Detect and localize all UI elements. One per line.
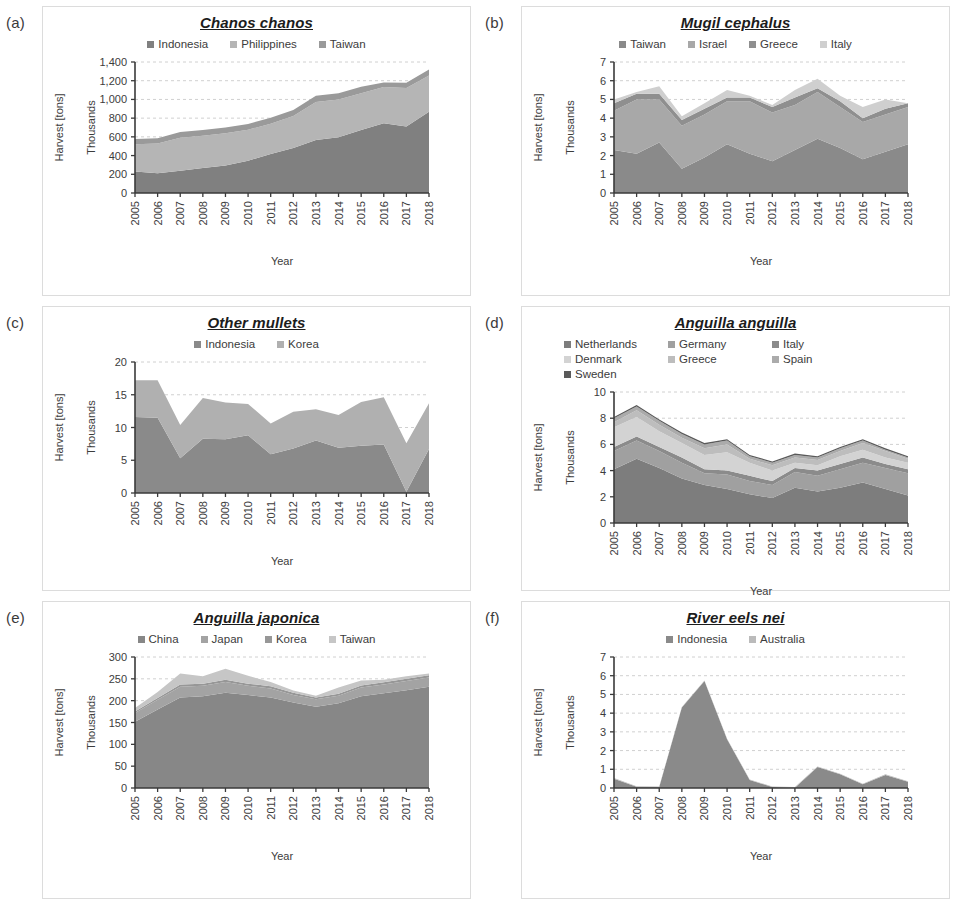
y-tick-label: 10 <box>115 422 127 434</box>
legend-swatch-icon <box>138 636 145 643</box>
y-tick-label: 400 <box>109 150 127 162</box>
x-tick-label: 2011 <box>744 201 756 225</box>
legend-item[interactable]: Denmark <box>564 353 668 365</box>
chart-plot-(e): 0501001502002503002005200620072008200920… <box>43 649 443 864</box>
figure-grid: (a) Chanos chanos IndonesiaPhilippinesTa… <box>0 0 958 903</box>
x-tick-label: 2013 <box>789 531 801 555</box>
unit-label: Thousands <box>85 400 97 455</box>
legend-item[interactable]: Netherlands <box>564 338 668 350</box>
y-tick-label: 600 <box>109 131 127 143</box>
y-axis-label: Harvest [tons] <box>532 689 544 757</box>
legend-item-label: Netherlands <box>575 338 637 350</box>
legend-item[interactable]: Indonesia <box>147 38 208 50</box>
legend-item-label: Taiwan <box>330 38 366 50</box>
chart-title-e: Anguilla japonica <box>43 609 470 626</box>
legend-item[interactable]: Indonesia <box>666 633 727 645</box>
legend-swatch-icon <box>230 41 237 48</box>
legend-item[interactable]: Sweden <box>564 368 668 380</box>
x-tick-label: 2013 <box>789 201 801 225</box>
legend-swatch-icon <box>564 371 571 378</box>
legend-item[interactable]: China <box>138 633 179 645</box>
chart-plot-(d): 0246810200520062007200820092010201120122… <box>522 384 922 599</box>
unit-label: Thousands <box>85 695 97 750</box>
y-tick-label: 2 <box>600 745 606 757</box>
legend-swatch-icon <box>668 356 675 363</box>
plot-c: 0510152020052006200720082009201020112012… <box>43 354 470 569</box>
legend-item[interactable]: Spain <box>772 353 876 365</box>
legend-item[interactable]: Philippines <box>230 38 297 50</box>
panel-f: (f) River eels nei IndonesiaAustralia 01… <box>479 595 958 903</box>
x-tick-label: 2007 <box>174 201 186 225</box>
y-tick-label: 3 <box>600 131 606 143</box>
legend-item[interactable]: Germany <box>668 338 772 350</box>
x-tick-label: 2011 <box>744 531 756 555</box>
x-tick-label: 2014 <box>812 796 824 820</box>
y-tick-label: 5 <box>600 688 606 700</box>
x-tick-label: 2016 <box>378 201 390 225</box>
y-tick-label: 0 <box>121 487 127 499</box>
x-tick-label: 2009 <box>698 531 710 555</box>
x-tick-label: 2011 <box>265 501 277 525</box>
y-tick-label: 2 <box>600 150 606 162</box>
y-tick-label: 1,000 <box>99 93 127 105</box>
x-tick-label: 2005 <box>608 201 620 225</box>
legend-item[interactable]: Greece <box>749 38 798 50</box>
panel-d: (d) Anguilla anguilla NetherlandsGermany… <box>479 300 958 595</box>
x-tick-label: 2010 <box>242 201 254 225</box>
x-tick-label: 2013 <box>310 201 322 225</box>
y-tick-label: 10 <box>594 386 606 398</box>
legend-item[interactable]: Korea <box>265 633 307 645</box>
y-tick-label: 1 <box>600 763 606 775</box>
y-tick-label: 300 <box>109 651 127 663</box>
x-axis-label: Year <box>750 255 773 267</box>
y-tick-label: 6 <box>600 438 606 450</box>
chart-title-a: Chanos chanos <box>43 14 470 31</box>
legend-item[interactable]: Korea <box>277 338 319 350</box>
unit-label: Thousands <box>564 695 576 750</box>
legend-item[interactable]: Indonesia <box>194 338 255 350</box>
legend-c: IndonesiaKorea <box>43 338 470 350</box>
legend-item[interactable]: Taiwan <box>319 38 366 50</box>
y-axis-label: Harvest [tons] <box>532 94 544 162</box>
legend-item[interactable]: Taiwan <box>329 633 376 645</box>
y-axis-label: Harvest [tons] <box>53 689 65 757</box>
legend-e: ChinaJapanKoreaTaiwan <box>43 633 470 645</box>
x-tick-label: 2016 <box>857 796 869 820</box>
x-axis-label: Year <box>750 850 773 862</box>
y-tick-label: 3 <box>600 726 606 738</box>
legend-item[interactable]: Japan <box>201 633 243 645</box>
x-tick-label: 2011 <box>265 201 277 225</box>
x-tick-label: 2014 <box>333 501 345 525</box>
legend-swatch-icon <box>319 41 326 48</box>
legend-item[interactable]: Australia <box>749 633 805 645</box>
legend-swatch-icon <box>329 636 336 643</box>
panel-letter-b: (b) <box>485 14 504 31</box>
x-tick-label: 2010 <box>721 796 733 820</box>
panel-c: (c) Other mullets IndonesiaKorea 0510152… <box>0 300 479 595</box>
legend-item[interactable]: Taiwan <box>619 38 666 50</box>
x-tick-label: 2008 <box>197 201 209 225</box>
legend-item[interactable]: Italy <box>772 338 876 350</box>
legend-item-label: Sweden <box>575 368 617 380</box>
legend-swatch-icon <box>666 636 673 643</box>
legend-item[interactable]: Italy <box>820 38 852 50</box>
plot-e: 0501001502002503002005200620072008200920… <box>43 649 470 864</box>
panel-c-box: Other mullets IndonesiaKorea 05101520200… <box>42 306 471 591</box>
legend-item[interactable]: Greece <box>668 353 772 365</box>
x-tick-label: 2008 <box>676 531 688 555</box>
x-tick-label: 2015 <box>834 201 846 225</box>
unit-label: Thousands <box>564 100 576 155</box>
y-tick-label: 0 <box>600 187 606 199</box>
y-tick-label: 100 <box>109 738 127 750</box>
x-tick-label: 2017 <box>400 201 412 225</box>
legend-item[interactable]: Israel <box>688 38 727 50</box>
legend-item-label: Indonesia <box>158 38 208 50</box>
legend-b: TaiwanIsraelGreeceItaly <box>522 38 949 50</box>
y-tick-label: 4 <box>600 707 606 719</box>
x-tick-label: 2007 <box>653 201 665 225</box>
legend-swatch-icon <box>749 636 756 643</box>
panel-b: (b) Mugil cephalus TaiwanIsraelGreeceIta… <box>479 0 958 300</box>
panel-a-box: Chanos chanos IndonesiaPhilippinesTaiwan… <box>42 6 471 296</box>
legend-swatch-icon <box>277 341 284 348</box>
x-tick-label: 2007 <box>653 796 665 820</box>
